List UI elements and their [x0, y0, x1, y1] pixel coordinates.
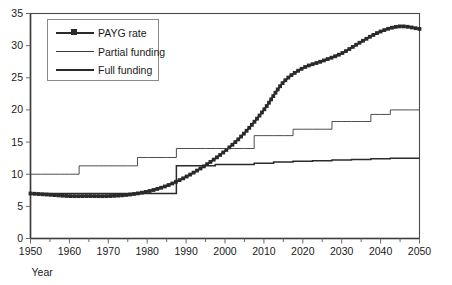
- payg-marker: [365, 37, 369, 41]
- chart-figure: 0510152025303519501960197019801990200020…: [0, 0, 452, 285]
- payg-marker: [344, 49, 348, 53]
- x-tick-label: 1950: [11, 246, 51, 256]
- payg-marker: [80, 194, 84, 198]
- legend-item-label: Full funding: [98, 64, 152, 76]
- x-tick-label: 2040: [361, 246, 401, 256]
- payg-marker: [337, 53, 341, 57]
- payg-marker: [262, 107, 266, 111]
- legend-item-partial-funding[interactable]: Partial funding: [54, 43, 158, 61]
- payg-marker: [315, 61, 319, 65]
- payg-marker: [326, 57, 330, 61]
- payg-marker: [300, 67, 304, 71]
- payg-marker: [159, 186, 163, 190]
- payg-marker: [358, 41, 362, 45]
- y-tick-label: 5: [1, 201, 23, 211]
- payg-marker: [68, 194, 72, 198]
- legend-item-full-funding[interactable]: Full funding: [54, 61, 158, 79]
- payg-marker: [76, 194, 80, 198]
- payg-marker: [265, 104, 269, 108]
- payg-marker: [368, 35, 372, 39]
- payg-marker: [181, 176, 185, 180]
- payg-marker: [104, 194, 108, 198]
- legend-item-label: PAYG rate: [98, 27, 147, 39]
- payg-marker: [303, 65, 307, 69]
- x-tick-label: 2010: [244, 246, 284, 256]
- payg-marker: [100, 194, 104, 198]
- payg-marker: [290, 73, 294, 77]
- x-tick-label: 2050: [400, 246, 440, 256]
- payg-marker: [398, 24, 402, 28]
- payg-marker: [390, 26, 394, 30]
- payg-marker: [341, 51, 345, 55]
- payg-marker: [152, 188, 156, 192]
- full-funding-line: [31, 158, 420, 193]
- payg-marker: [318, 60, 322, 64]
- payg-marker: [163, 185, 167, 189]
- payg-marker: [296, 69, 300, 73]
- payg-marker: [322, 59, 326, 63]
- payg-marker: [382, 28, 386, 32]
- x-tick-label: 1960: [49, 246, 89, 256]
- payg-marker: [148, 189, 152, 193]
- x-tick-label: 2030: [322, 246, 362, 256]
- payg-marker: [379, 30, 383, 34]
- payg-marker: [271, 94, 275, 98]
- payg-marker: [178, 178, 182, 182]
- payg-marker: [195, 169, 199, 173]
- payg-marker: [84, 194, 88, 198]
- payg-marker: [185, 175, 189, 179]
- y-tick-label: 30: [1, 40, 23, 50]
- x-tick-label: 1970: [88, 246, 128, 256]
- payg-marker: [167, 183, 171, 187]
- payg-marker: [199, 167, 203, 171]
- payg-marker: [209, 160, 213, 164]
- payg-marker: [92, 194, 96, 198]
- payg-marker: [96, 194, 100, 198]
- legend-item-payg-rate[interactable]: PAYG rate: [54, 24, 158, 42]
- legend-marker-square: [71, 29, 77, 35]
- payg-marker: [330, 56, 334, 60]
- y-tick-label: 0: [1, 233, 23, 243]
- payg-marker: [371, 33, 375, 37]
- payg-marker: [394, 25, 398, 29]
- payg-marker: [418, 27, 422, 31]
- x-tick-label: 2020: [283, 246, 323, 256]
- payg-marker: [112, 194, 116, 198]
- payg-marker: [410, 26, 414, 30]
- payg-marker: [354, 43, 358, 47]
- payg-marker: [347, 47, 351, 51]
- x-tick-label: 1980: [127, 246, 167, 256]
- payg-marker: [274, 91, 278, 95]
- legend-swatch-line: [56, 69, 94, 71]
- payg-marker: [188, 173, 192, 177]
- x-tick-label: 1990: [166, 246, 206, 256]
- legend-item-label: Partial funding: [98, 46, 165, 58]
- payg-marker: [375, 31, 379, 35]
- x-axis-title: Year: [32, 267, 53, 278]
- payg-marker: [88, 194, 92, 198]
- payg-marker: [72, 194, 76, 198]
- payg-marker: [311, 62, 315, 66]
- y-tick-label: 35: [1, 8, 23, 18]
- payg-marker: [307, 64, 311, 68]
- payg-marker: [406, 25, 410, 29]
- payg-marker: [155, 187, 159, 191]
- payg-marker: [333, 54, 337, 58]
- payg-marker: [60, 194, 64, 198]
- payg-marker: [402, 24, 406, 28]
- payg-marker: [267, 101, 271, 105]
- payg-marker: [192, 171, 196, 175]
- chart-legend: PAYG ratePartial fundingFull funding: [47, 19, 159, 81]
- payg-marker: [64, 194, 68, 198]
- payg-marker: [361, 39, 365, 43]
- x-tick-label: 2000: [205, 246, 245, 256]
- series-full-funding: [31, 158, 420, 193]
- payg-marker: [386, 27, 390, 31]
- payg-marker: [116, 194, 120, 198]
- y-tick-label: 20: [1, 104, 23, 114]
- y-tick-label: 10: [1, 169, 23, 179]
- payg-marker: [170, 182, 174, 186]
- payg-marker: [351, 45, 355, 49]
- payg-marker: [414, 26, 418, 30]
- payg-marker: [212, 158, 216, 162]
